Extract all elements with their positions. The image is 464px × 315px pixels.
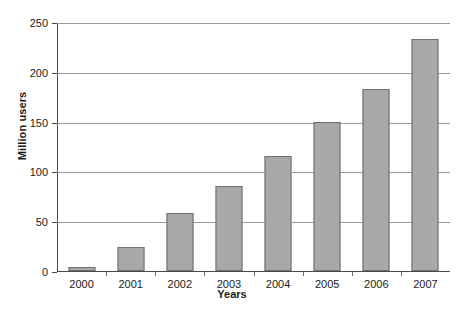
y-axis-tick-label: 100	[30, 166, 48, 178]
x-axis-tick-label: 2005	[315, 278, 339, 290]
y-axis-tick	[52, 73, 57, 74]
x-axis-tick	[106, 272, 107, 276]
y-axis-tick-label: 150	[30, 117, 48, 129]
bar-2001	[117, 247, 144, 271]
caption-remnant: · ··· ·· ·· ·· · ···· · ·· ·· · · ··	[0, 304, 464, 311]
bar-2002	[166, 213, 193, 271]
y-axis-tick-label: 250	[30, 17, 48, 29]
y-axis-tick	[52, 272, 57, 273]
y-axis-line	[57, 23, 58, 272]
bar-2007	[412, 39, 439, 271]
plot-area: 0501001502002502000200120022003200420052…	[57, 23, 450, 272]
gridline	[57, 222, 450, 223]
x-axis-tick	[204, 272, 205, 276]
x-axis-tick-label: 2006	[364, 278, 388, 290]
bar-2004	[265, 156, 292, 271]
y-axis-tick-label: 50	[36, 216, 48, 228]
x-axis-tick-label: 2004	[266, 278, 290, 290]
x-axis-tick-label: 2002	[168, 278, 192, 290]
x-axis-tick	[352, 272, 353, 276]
bar-chart-figure: Million users Years 05010015020025020002…	[0, 0, 464, 315]
y-axis-tick	[52, 222, 57, 223]
x-axis-tick-label: 2001	[118, 278, 142, 290]
x-axis-tick	[303, 272, 304, 276]
bar-2005	[314, 122, 341, 271]
gridline	[57, 172, 450, 173]
bar-2003	[215, 186, 242, 271]
y-axis-tick	[52, 23, 57, 24]
y-axis-tick	[52, 123, 57, 124]
x-axis-tick	[155, 272, 156, 276]
x-axis-tick-label: 2000	[69, 278, 93, 290]
bar-2006	[363, 89, 390, 271]
x-axis-tick	[401, 272, 402, 276]
bar-2000	[68, 267, 95, 271]
y-axis-tick-label: 0	[42, 266, 48, 278]
x-axis-tick	[254, 272, 255, 276]
gridline	[57, 123, 450, 124]
x-axis-tick-label: 2003	[217, 278, 241, 290]
y-axis-title: Million users	[16, 71, 28, 181]
y-axis-tick-label: 200	[30, 67, 48, 79]
gridline	[57, 23, 450, 24]
gridline	[57, 73, 450, 74]
x-axis-tick-label: 2007	[413, 278, 437, 290]
y-axis-tick	[52, 172, 57, 173]
